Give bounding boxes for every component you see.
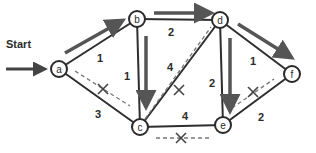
edge-weight-a-b: 1 [97,52,103,64]
edge-weight-b-c: 1 [124,70,130,82]
edge-b-d [137,19,220,20]
node-d: d [212,12,228,28]
shortest-path-graph: Start 131244212 abcdef [0,0,316,153]
node-label: f [291,69,294,80]
node-f: f [284,66,300,82]
edge-weight-c-d: 4 [167,61,174,73]
edge-weight-b-d: 2 [168,26,174,38]
edge-weight-d-f: 1 [250,55,256,67]
node-e: e [215,117,231,133]
edge-d-e [220,20,223,125]
edge-weight-a-c: 3 [95,108,101,120]
node-c: c [132,119,148,135]
cross-icon [98,84,108,94]
edge-c-d [140,20,220,127]
node-a: a [51,61,67,77]
edge-weight-e-f: 2 [258,111,264,123]
node-label: e [220,120,226,131]
node-label: d [217,15,223,26]
start-label: Start [6,38,31,50]
start-indicator: Start [6,38,42,69]
node-label: b [134,14,140,25]
rejected-c-e [156,133,209,143]
cross-icon [248,87,258,97]
node-b: b [129,11,145,27]
edge-b-c [137,19,140,127]
cross-icon [174,85,184,95]
edge-c-e [140,125,223,127]
edge-weight-d-e: 2 [209,77,215,89]
edge-weight-c-e: 4 [182,110,189,122]
rejected-c-d [145,27,211,119]
node-label: a [56,64,62,75]
node-label: c [138,122,143,133]
